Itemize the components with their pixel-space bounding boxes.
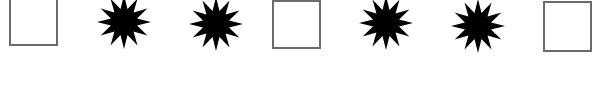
square-shape xyxy=(543,1,592,52)
star-icon xyxy=(97,0,151,49)
star-icon xyxy=(359,0,413,50)
square-shape xyxy=(9,0,58,46)
star-icon xyxy=(189,0,243,51)
square-shape xyxy=(272,0,321,49)
star-icon xyxy=(451,0,505,53)
